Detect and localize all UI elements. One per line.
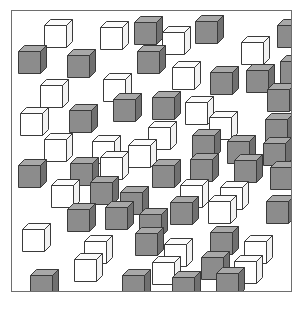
cube-gray: [18, 45, 44, 71]
cube-face-side: [97, 254, 103, 282]
cube-gray: [67, 203, 93, 229]
cube-face-front: [75, 260, 97, 282]
cube-gray: [113, 93, 139, 119]
cube-face-front: [163, 33, 185, 55]
cube-face-top: [281, 56, 293, 62]
cube-face-front: [235, 161, 257, 183]
cube-face-top: [123, 270, 151, 276]
cube-face-side: [123, 152, 129, 180]
cube-white: [185, 96, 211, 122]
cube-face-top: [268, 84, 293, 90]
cube-face-front: [196, 22, 218, 44]
cube-face-front: [45, 26, 67, 48]
cube-face-side: [171, 122, 177, 150]
cube-face-top: [45, 20, 73, 26]
cube-face-top: [129, 140, 157, 146]
cube-gray: [120, 186, 146, 212]
cube-face-top: [221, 182, 249, 188]
cube-face-top: [41, 80, 69, 86]
cube-face-side: [269, 65, 275, 93]
cube-face-front: [242, 43, 264, 65]
cube-gray: [227, 135, 253, 161]
cube-face-front: [106, 208, 128, 230]
cube-face-side: [115, 136, 121, 164]
cube-face-top: [153, 160, 181, 166]
cube-face-top: [68, 50, 96, 56]
cube-face-top: [106, 202, 134, 208]
cube-face-front: [153, 98, 175, 120]
cube-gray: [277, 19, 292, 45]
cube-white: [162, 26, 188, 52]
cube-face-side: [286, 138, 292, 166]
cube-face-side: [126, 74, 132, 102]
cube-face-front: [247, 71, 269, 93]
cube-face-top: [173, 272, 201, 278]
cube-face-top: [278, 20, 293, 26]
cube-face-top: [19, 46, 47, 52]
cube-face-top: [181, 180, 209, 186]
cube-face-front: [186, 103, 208, 125]
cube-gray: [280, 55, 292, 81]
cube-gray: [135, 227, 161, 253]
cube-face-top: [235, 256, 263, 262]
cube-face-top: [52, 180, 80, 186]
cube-face-front: [173, 278, 195, 293]
cube-gray: [210, 226, 236, 252]
cube-face-top: [135, 17, 163, 23]
cube-face-front: [278, 26, 293, 48]
cube-face-front: [264, 144, 286, 166]
cube-face-top: [70, 105, 98, 111]
cube-gray: [267, 83, 292, 109]
cube-face-top: [21, 108, 49, 114]
cube-face-side: [257, 256, 263, 284]
cube-face-top: [228, 136, 256, 142]
cube-face-top: [75, 254, 103, 260]
cube-face-front: [85, 242, 107, 264]
cube-face-front: [71, 164, 93, 186]
cube-face-top: [153, 257, 181, 263]
cube-face-top: [19, 160, 47, 166]
cube-face-side: [41, 160, 47, 188]
cube-face-front: [136, 234, 158, 256]
cube-face-front: [268, 90, 290, 112]
cube-face-front: [45, 140, 67, 162]
cube-face-side: [113, 177, 119, 205]
cube-face-front: [149, 128, 171, 150]
cube-face-side: [43, 108, 49, 136]
cube-face-top: [245, 236, 273, 242]
cube-face-side: [208, 97, 214, 125]
cube-face-top: [121, 187, 149, 193]
cube-white: [44, 19, 70, 45]
cube-face-side: [232, 112, 238, 140]
cube-white: [100, 151, 126, 177]
cube-face-side: [136, 94, 142, 122]
cube-gray: [122, 269, 148, 292]
cube-face-front: [68, 210, 90, 232]
cube-face-side: [264, 37, 270, 65]
cube-face-front: [129, 146, 151, 168]
cube-face-front: [221, 188, 243, 210]
cube-face-side: [160, 46, 166, 74]
cube-white: [209, 111, 235, 137]
cube-gray: [190, 153, 216, 179]
cube-face-top: [114, 94, 142, 100]
cube-face-side: [203, 180, 209, 208]
cube-face-top: [136, 228, 164, 234]
cube-face-front: [181, 186, 203, 208]
cube-face-front: [173, 68, 195, 90]
cube-gray: [105, 201, 131, 227]
cube-face-side: [185, 27, 191, 55]
cube-face-side: [45, 224, 51, 252]
cube-white: [100, 21, 126, 47]
cube-face-side: [195, 272, 201, 293]
cube-face-side: [250, 136, 256, 164]
cube-face-top: [23, 224, 51, 230]
cube-face-front: [211, 233, 233, 255]
cube-face-side: [93, 158, 99, 186]
cube-face-top: [191, 154, 219, 160]
cube-face-front: [101, 28, 123, 50]
cube-face-side: [128, 202, 134, 230]
cube-scatter-panel: [11, 10, 292, 292]
cube-face-front: [135, 23, 157, 45]
cube-face-side: [90, 50, 96, 78]
